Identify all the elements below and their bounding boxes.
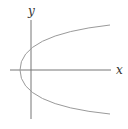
x-axis-label: x <box>116 63 123 77</box>
parabola-graph: y x <box>0 0 128 129</box>
y-axis-label: y <box>27 4 35 18</box>
